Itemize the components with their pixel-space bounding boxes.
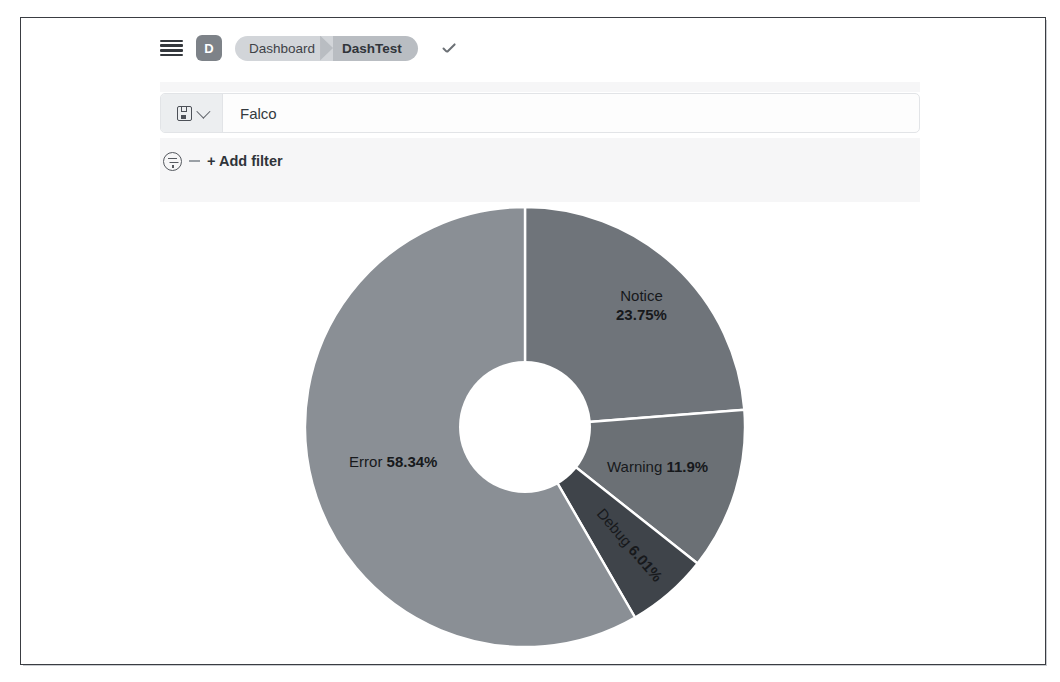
donut-chart-panel: Notice23.75%Warning 11.9%Debug 6.01%Erro… [20,185,1046,655]
slice-label-error: Error 58.34% [349,453,437,470]
add-filter-button[interactable]: + Add filter [207,153,283,169]
breadcrumb-item-dashboard[interactable]: Dashboard [235,36,320,61]
disk-save-icon [177,106,192,121]
filter-separator [189,160,200,162]
donut-chart[interactable]: Notice23.75%Warning 11.9%Debug 6.01%Erro… [20,185,1046,655]
breadcrumb: Dashboard DashTest [235,36,418,61]
search-query-bar[interactable]: Falco [160,93,920,133]
hamburger-menu-icon[interactable] [160,40,183,57]
check-icon[interactable] [442,41,457,56]
search-input[interactable]: Falco [223,105,277,122]
filter-funnel-icon[interactable] [163,152,182,171]
scan-artifact-band [160,82,920,92]
saved-query-button[interactable] [161,94,223,132]
breadcrumb-item-dashtest[interactable]: DashTest [333,36,418,61]
breadcrumb-separator-icon [320,36,333,61]
slice-label-warning: Warning 11.9% [607,458,708,475]
app-badge[interactable]: D [196,35,222,61]
donut-hole [459,361,591,493]
filter-bar: + Add filter [163,148,283,174]
chevron-down-icon [196,105,210,119]
top-navigation-bar: D Dashboard DashTest [160,28,520,68]
